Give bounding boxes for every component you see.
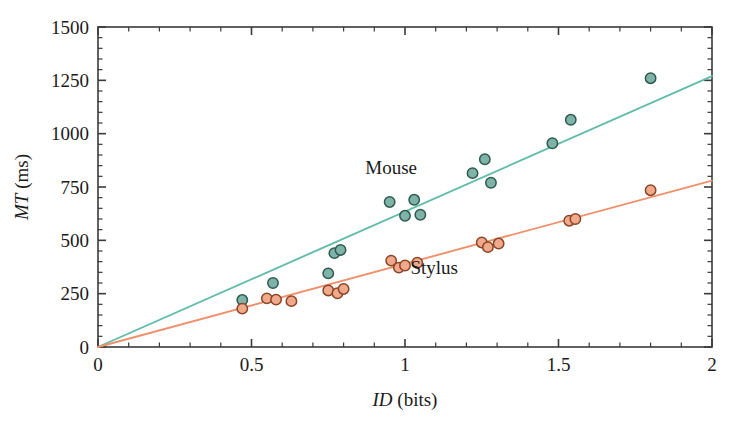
x-tick-label: 1.5 (547, 354, 571, 375)
data-point-mouse (547, 138, 557, 148)
y-axis-title: MT (ms) (11, 154, 33, 221)
data-point-stylus (483, 242, 493, 252)
x-tick-label: 0.5 (240, 354, 264, 375)
y-tick-label: 250 (61, 283, 90, 304)
stylus-label: Stylus (410, 257, 458, 278)
data-point-mouse (384, 197, 394, 207)
data-point-mouse (645, 73, 655, 83)
data-point-stylus (400, 260, 410, 270)
data-point-mouse (467, 168, 477, 178)
mouse-label: Mouse (365, 157, 417, 178)
y-tick-label: 750 (61, 177, 90, 198)
data-point-mouse (268, 278, 278, 288)
axes-frame (98, 27, 712, 347)
data-point-mouse (415, 210, 425, 220)
data-point-mouse (480, 154, 490, 164)
x-axis-ticks (98, 27, 712, 347)
y-tick-label: 0 (80, 337, 90, 358)
data-point-stylus (338, 284, 348, 294)
data-point-stylus (493, 238, 503, 248)
data-point-stylus (286, 296, 296, 306)
data-point-mouse (566, 115, 576, 125)
series-annotations: MouseStylus (365, 157, 458, 278)
y-tick-label: 500 (61, 230, 90, 251)
plot-frame (98, 27, 712, 347)
x-axis-tick-labels: 00.511.52 (93, 354, 717, 375)
x-tick-label: 1 (400, 354, 410, 375)
data-point-stylus (570, 214, 580, 224)
data-point-mouse (323, 268, 333, 278)
y-tick-label: 1250 (51, 70, 89, 91)
data-point-mouse (486, 178, 496, 188)
x-tick-label: 2 (707, 354, 717, 375)
x-axis-title: ID (bits) (372, 389, 438, 411)
data-point-mouse (409, 195, 419, 205)
y-axis-tick-labels: 0250500750100012501500 (51, 17, 89, 358)
data-point-stylus (271, 294, 281, 304)
y-tick-label: 1000 (51, 123, 89, 144)
plot-canvas: 0250500750100012501500 00.511.52 MouseSt… (0, 0, 731, 421)
y-tick-label: 1500 (51, 17, 89, 38)
data-point-stylus (645, 185, 655, 195)
data-point-mouse (400, 211, 410, 221)
data-point-mouse (335, 245, 345, 255)
scatter-plot-figure: 0250500750100012501500 00.511.52 MouseSt… (0, 0, 731, 421)
data-point-stylus (237, 303, 247, 313)
y-axis-ticks (98, 27, 712, 347)
x-tick-label: 0 (93, 354, 103, 375)
